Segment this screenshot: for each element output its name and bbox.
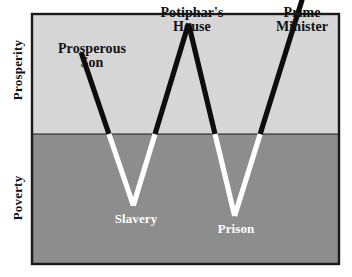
region-poverty (32, 134, 339, 264)
point-label-prison: Prison (196, 222, 276, 235)
point-label-slavery: Slavery (92, 212, 180, 225)
chart-figure: Prosperity Poverty Prosperous Son Potiph… (0, 0, 352, 277)
point-label-prime-minister: Prime Minister (256, 6, 348, 35)
point-label-potiphars-house: Potiphar's House (140, 6, 244, 35)
point-label-prosperous-son: Prosperous Son (40, 42, 144, 71)
